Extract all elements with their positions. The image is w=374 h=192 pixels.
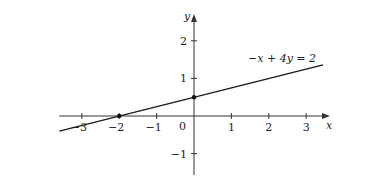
intercept-point [192,95,196,99]
x-tick-label: −2 [108,121,124,134]
equation-label: −x + 4y = 2 [248,52,316,65]
x-tick-label: 1 [228,121,235,134]
x-axis-label: x [326,119,333,132]
y-tick-label: −1 [171,148,187,161]
data-series [59,65,323,131]
x-tick-label: −1 [145,121,161,134]
y-axis-arrow-icon [191,14,197,22]
y-tick-label: 2 [180,35,187,48]
axes [59,14,330,175]
equation-line [59,65,323,131]
origin-label: 0 [179,120,186,133]
chart-labels: xy−x + 4y = 2 [183,10,333,132]
y-axis-label: y [183,10,191,23]
x-tick-label: 3 [303,121,310,134]
line-chart: −3−2−1123−1120 xy−x + 4y = 2 [0,0,374,192]
x-tick-label: 2 [265,121,272,134]
y-tick-label: 1 [180,72,187,85]
intercept-point [117,114,121,118]
